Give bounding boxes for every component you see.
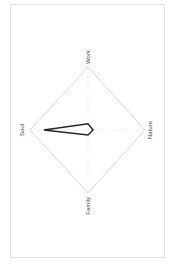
label-work: Work <box>85 49 91 64</box>
radar-chart: Work Nature Family Soul <box>0 0 170 270</box>
label-family: Family <box>85 197 91 215</box>
series-polygon <box>44 124 93 135</box>
label-nature: Nature <box>147 120 153 139</box>
label-soul: Soul <box>19 124 25 136</box>
